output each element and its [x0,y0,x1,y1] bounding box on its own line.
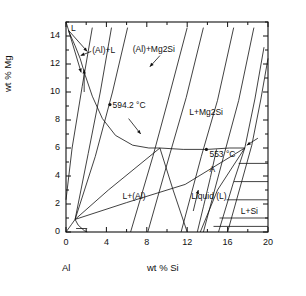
invariant-point-dot [108,103,111,106]
annotation-liquid-L-center: Liquid (L) [191,191,226,201]
x-tick-label: 16 [216,237,240,247]
annotation-al-plus-mg2si: (Al)+Mg2Si [133,44,175,54]
x-tick-label: 12 [175,237,199,247]
annotation-liquid-L-top: L [71,23,76,33]
annotation-temp-553: 553 °C [209,149,235,159]
y-tick-label: 10 [42,86,60,96]
y-tick-label: 0 [42,226,60,236]
y-tick-label: 12 [42,58,60,68]
x-tick-label: 20 [256,237,280,247]
phase-diagram-figure: 048121620 02468101214 L(Al)+L(Al)+Mg2Si5… [0,0,306,296]
annotation-L-plus-Al: L+(Al) [123,191,146,201]
annotation-temp-594: 594.2 °C [112,100,145,110]
x-tick-label: 8 [135,237,159,247]
y-tick-label: 8 [42,114,60,124]
x-axis-title: wt % Si [147,262,179,273]
y-tick-label: 14 [42,30,60,40]
annotation-L-plus-Si: L+Si [241,206,258,216]
y-tick-label: 2 [42,198,60,208]
invariant-point-dot [205,148,208,151]
annotation-point-A: A [209,164,215,174]
origin-corner-label: Al [62,262,70,273]
y-tick-label: 6 [42,142,60,152]
y-tick-label: 4 [42,170,60,180]
x-tick-label: 0 [54,237,78,247]
x-tick-label: 4 [94,237,118,247]
annotation-al-plus-L: (Al)+L [92,45,115,55]
annotation-L-plus-mg2si: L+Mg2Si [189,107,223,117]
y-axis-title: wt % Mg [2,56,13,92]
